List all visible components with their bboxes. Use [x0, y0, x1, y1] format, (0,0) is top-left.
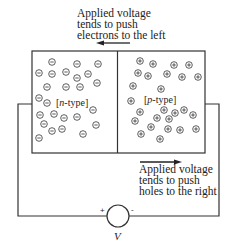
bottom-annotation: Applied voltage tends to push holes to t… [139, 160, 217, 199]
plus-terminal-label: + [100, 206, 105, 215]
n-type-label: [n-type] [56, 97, 88, 108]
circuit-wires [18, 104, 219, 216]
top-annotation: Applied voltage tends to push electrons … [77, 7, 166, 46]
left-arrow-icon [96, 41, 130, 46]
voltage-label: V [114, 230, 122, 242]
minus-terminal-label: - [131, 205, 134, 214]
top-annotation-line-3: electrons to the left [77, 29, 166, 41]
p-type-label: [p-type] [144, 94, 176, 105]
voltage-source-icon [107, 205, 129, 227]
voltage-source: + - V [100, 205, 134, 242]
pn-junction-diagram: Applied voltage tends to push electrons … [0, 0, 234, 246]
bottom-annotation-line-3: holes to the right [139, 185, 217, 198]
